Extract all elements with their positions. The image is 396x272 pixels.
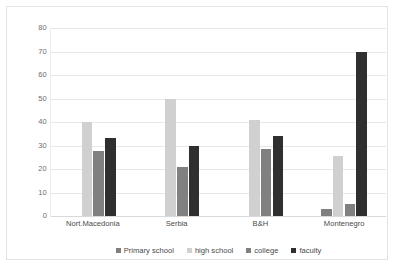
y-axis-tick-10: 10 bbox=[7, 189, 47, 197]
legend-swatch-icon bbox=[116, 248, 121, 253]
bar-serbia-faculty bbox=[189, 146, 200, 217]
y-axis-tick-50: 50 bbox=[7, 95, 47, 103]
chart-frame: 01020304050607080 Nort.MacedoniaSerbiaB&… bbox=[6, 6, 388, 260]
y-axis-tick-20: 20 bbox=[7, 165, 47, 173]
legend-swatch-icon bbox=[187, 248, 192, 253]
bar-nort-macedonia-college bbox=[93, 151, 104, 216]
y-axis-tick-80: 80 bbox=[7, 24, 47, 32]
gridline-50 bbox=[51, 99, 386, 100]
bar-b-h-high-school bbox=[249, 120, 260, 216]
legend-item-college[interactable]: college bbox=[246, 246, 278, 255]
gridline-60 bbox=[51, 75, 386, 76]
bar-montenegro-college bbox=[345, 204, 356, 216]
y-axis: 01020304050607080 bbox=[7, 28, 47, 216]
gridline-0 bbox=[51, 216, 386, 217]
x-axis-label-nort-macedonia: Nort.Macedonia bbox=[51, 219, 135, 229]
y-axis-tick-70: 70 bbox=[7, 48, 47, 56]
legend-item-label: Primary school bbox=[124, 246, 174, 255]
gridline-70 bbox=[51, 52, 386, 53]
bar-nort-macedonia-faculty bbox=[105, 138, 116, 216]
y-axis-tick-60: 60 bbox=[7, 71, 47, 79]
bar-b-h-college bbox=[261, 149, 272, 216]
x-axis-label-montenegro: Montenegro bbox=[302, 219, 386, 229]
chart-legend: Primary schoolhigh schoolcollegefaculty bbox=[51, 246, 386, 255]
plot-area bbox=[51, 28, 386, 216]
legend-swatch-icon bbox=[246, 248, 251, 253]
legend-swatch-icon bbox=[291, 248, 296, 253]
legend-item-high-school[interactable]: high school bbox=[187, 246, 233, 255]
x-axis-label-b-h: B&H bbox=[219, 219, 303, 229]
bar-montenegro-primary-school bbox=[321, 209, 332, 216]
legend-item-label: faculty bbox=[299, 246, 321, 255]
bar-serbia-college bbox=[177, 167, 188, 216]
gridline-40 bbox=[51, 122, 386, 123]
bar-nort-macedonia-high-school bbox=[82, 122, 93, 216]
legend-item-label: high school bbox=[195, 246, 233, 255]
chart-screenshot: 01020304050607080 Nort.MacedoniaSerbiaB&… bbox=[0, 0, 396, 272]
legend-item-primary-school[interactable]: Primary school bbox=[116, 246, 174, 255]
y-axis-tick-30: 30 bbox=[7, 142, 47, 150]
legend-item-faculty[interactable]: faculty bbox=[291, 246, 321, 255]
gridline-30 bbox=[51, 146, 386, 147]
bar-serbia-high-school bbox=[165, 99, 176, 217]
bar-montenegro-high-school bbox=[333, 156, 344, 216]
bar-b-h-faculty bbox=[273, 136, 284, 216]
gridline-80 bbox=[51, 28, 386, 29]
bar-montenegro-faculty bbox=[356, 52, 367, 217]
x-axis-label-serbia: Serbia bbox=[135, 219, 219, 229]
y-axis-tick-40: 40 bbox=[7, 118, 47, 126]
legend-item-label: college bbox=[254, 246, 278, 255]
y-axis-tick-0: 0 bbox=[7, 212, 47, 220]
